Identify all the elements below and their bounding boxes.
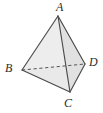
vertex-label-c: C xyxy=(64,97,72,109)
vertex-label-a: A xyxy=(56,1,63,13)
tetrahedron-figure: A B C D xyxy=(0,0,103,113)
vertex-label-d: D xyxy=(89,56,98,68)
vertex-label-b: B xyxy=(5,62,12,74)
tetrahedron-drawing xyxy=(0,0,103,113)
